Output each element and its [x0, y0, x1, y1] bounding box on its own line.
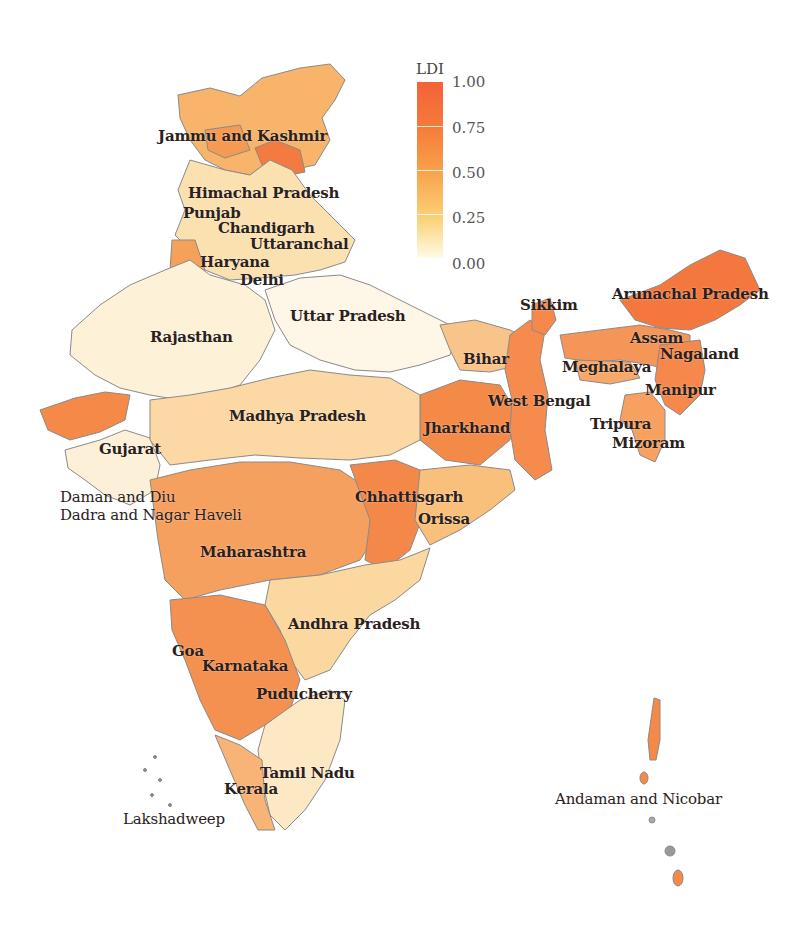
label-rajasthan: Rajasthan	[150, 328, 233, 346]
legend-tickmark	[417, 126, 443, 127]
label-chhattisgarh: Chhattisgarh	[355, 488, 463, 506]
india-choropleth-map	[0, 0, 812, 928]
region-lakshadweep-dot	[151, 794, 154, 797]
label-gujarat: Gujarat	[99, 440, 161, 458]
label-mizoram: Mizoram	[612, 434, 685, 452]
region-lakshadweep-dot	[154, 756, 157, 759]
label-west-bengal: West Bengal	[488, 392, 591, 410]
label-karnataka: Karnataka	[202, 657, 288, 675]
label-dadra-nagar-haveli: Dadra and Nagar Haveli	[60, 506, 242, 524]
label-tripura: Tripura	[590, 415, 651, 433]
label-madhya-pradesh: Madhya Pradesh	[229, 407, 366, 425]
label-orissa: Orissa	[418, 510, 470, 528]
label-lakshadweep: Lakshadweep	[123, 810, 225, 828]
label-haryana: Haryana	[200, 253, 269, 271]
label-andaman-nicobar: Andaman and Nicobar	[555, 790, 722, 808]
color-legend: LDI 1.00 0.75 0.50 0.25 0.00	[414, 62, 504, 277]
label-jharkhand: Jharkhand	[424, 419, 510, 437]
label-puducherry: Puducherry	[256, 685, 352, 703]
label-maharashtra: Maharashtra	[200, 543, 306, 561]
region-gujarat-kutch	[40, 392, 130, 440]
region-nicobar-dot1	[649, 817, 655, 823]
legend-tickmark	[417, 170, 443, 171]
label-bihar: Bihar	[463, 350, 509, 368]
legend-tick-0-00: 0.00	[452, 255, 485, 273]
legend-tickmark	[417, 214, 443, 215]
label-uttar-pradesh: Uttar Pradesh	[290, 307, 405, 325]
region-lakshadweep-dot	[169, 804, 172, 807]
region-lakshadweep-dot	[144, 769, 147, 772]
label-himachal-pradesh: Himachal Pradesh	[188, 184, 339, 202]
legend-tick-1-00: 1.00	[452, 73, 485, 91]
label-meghalaya: Meghalaya	[562, 358, 651, 376]
region-andaman-small	[640, 772, 648, 784]
region-nicobar	[673, 870, 683, 886]
label-arunachal-pradesh: Arunachal Pradesh	[612, 285, 769, 303]
legend-tick-0-50: 0.50	[452, 164, 485, 182]
legend-tick-0-75: 0.75	[452, 119, 485, 137]
label-nagaland: Nagaland	[660, 345, 739, 363]
label-goa: Goa	[172, 642, 204, 660]
region-lakshadweep-dot	[159, 779, 162, 782]
label-daman-diu: Daman and Diu	[60, 488, 175, 506]
region-nicobar-dot2	[665, 846, 675, 856]
label-kerala: Kerala	[224, 780, 278, 798]
label-sikkim: Sikkim	[520, 296, 578, 314]
legend-tick-0-25: 0.25	[452, 209, 485, 227]
label-manipur: Manipur	[645, 381, 716, 399]
label-andhra-pradesh: Andhra Pradesh	[288, 615, 420, 633]
label-uttaranchal: Uttaranchal	[250, 235, 348, 253]
legend-title: LDI	[416, 60, 444, 78]
region-andaman	[648, 698, 660, 760]
label-jammu-kashmir: Jammu and Kashmir	[158, 127, 327, 145]
label-delhi: Delhi	[240, 271, 284, 289]
